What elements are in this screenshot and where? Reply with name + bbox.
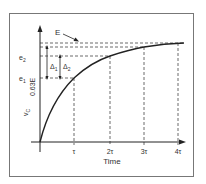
horizontal-reference-lines: [40, 43, 184, 78]
charging-curve: [40, 43, 184, 142]
label-delta1: Δ1: [50, 63, 58, 72]
label-E: E: [55, 28, 60, 37]
label-0.63E: 0.63E: [29, 77, 36, 96]
x-tick-2tau: 2τ: [107, 148, 114, 155]
label-delta2: Δ2: [63, 63, 71, 72]
label-e1: e1: [19, 75, 26, 84]
x-axis-label: Time: [103, 157, 121, 166]
E-pointer: [63, 34, 79, 42]
figure-frame: [10, 14, 194, 177]
vertical-reference-lines: [74, 43, 178, 145]
x-axis-arrow-icon: [179, 140, 186, 145]
label-e2: e2: [19, 54, 26, 63]
x-tick-tau: τ: [73, 148, 76, 155]
x-tick-4tau: 4τ: [175, 148, 182, 155]
y-axis-label: vC: [22, 109, 31, 117]
E-pointer-line: [63, 34, 76, 40]
rc-charging-curve-figure: E e2 e1 0.63E Δ1 Δ2 vC τ 2τ 3τ 4τ Time: [0, 0, 206, 184]
y-axis-arrow-icon: [38, 25, 43, 32]
x-tick-3tau: 3τ: [141, 148, 148, 155]
